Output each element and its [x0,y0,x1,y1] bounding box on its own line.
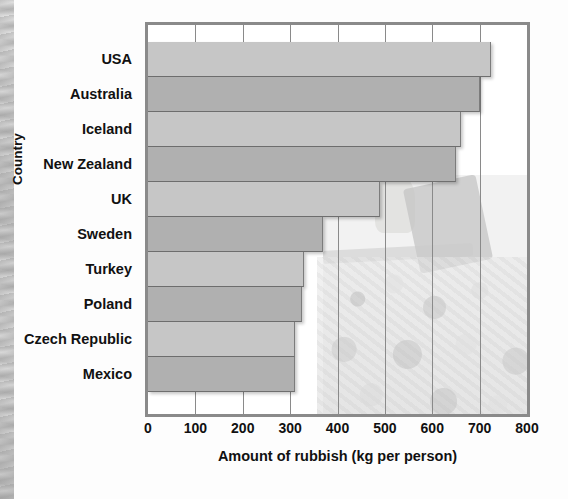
y-label-poland: Poland [84,287,132,322]
bar-uk [148,182,380,217]
y-label-czech-republic: Czech Republic [24,322,132,357]
bar-row [148,287,527,322]
bar-row [148,112,527,147]
y-label-australia: Australia [70,77,132,112]
x-tick-200: 200 [231,420,254,436]
bar-australia [148,77,480,112]
x-tick-100: 100 [184,420,207,436]
y-label-new-zealand: New Zealand [43,147,132,182]
x-axis-tick-labels: 0100200300400500600700800 [145,420,530,440]
bar-row [148,322,527,357]
chart-page: Country USAAustraliaIcelandNew ZealandUK… [0,0,568,499]
x-tick-500: 500 [373,420,396,436]
x-tick-400: 400 [326,420,349,436]
y-label-mexico: Mexico [83,357,132,392]
bars-layer [148,25,527,414]
y-label-sweden: Sweden [77,217,132,252]
bar-mexico [148,357,295,392]
bar-sweden [148,217,323,252]
y-label-usa: USA [101,42,132,77]
bar-row [148,147,527,182]
x-tick-800: 800 [515,420,538,436]
x-tick-300: 300 [278,420,301,436]
x-tick-700: 700 [468,420,491,436]
bar-iceland [148,112,461,147]
bar-row [148,77,527,112]
x-tick-0: 0 [144,420,152,436]
bar-turkey [148,252,304,287]
y-label-uk: UK [111,182,132,217]
y-label-turkey: Turkey [86,252,132,287]
plot-area [145,22,530,417]
x-axis-title: Amount of rubbish (kg per person) [145,448,530,464]
bar-row [148,42,527,77]
y-label-iceland: Iceland [82,112,132,147]
bar-poland [148,287,302,322]
x-tick-600: 600 [421,420,444,436]
bar-czech-republic [148,322,295,357]
bar-row [148,357,527,392]
bar-row [148,217,527,252]
bar-new-zealand [148,147,456,182]
y-axis-category-labels: USAAustraliaIcelandNew ZealandUKSwedenTu… [0,22,140,417]
bar-row [148,252,527,287]
bar-usa [148,42,491,77]
bar-row [148,182,527,217]
